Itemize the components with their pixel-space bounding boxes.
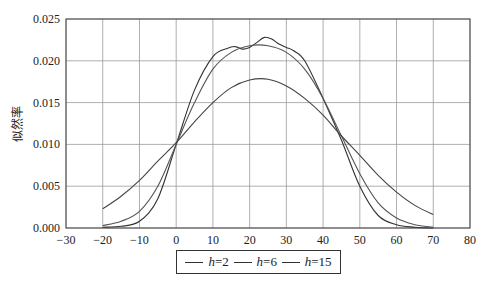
- x-tick-label: 10: [207, 233, 219, 247]
- plot-frame: [66, 19, 470, 228]
- x-tick-label: 70: [427, 233, 439, 247]
- legend-line-swatch: [185, 262, 203, 263]
- y-axis-ticks: 0.0000.0050.0100.0150.0200.025: [33, 12, 60, 235]
- x-tick-label: −20: [93, 233, 112, 247]
- x-tick-label: 20: [244, 233, 256, 247]
- x-tick-label: −10: [130, 233, 149, 247]
- y-tick-label: 0.015: [33, 96, 60, 110]
- x-tick-label: 80: [464, 233, 476, 247]
- legend-line-swatch: [282, 262, 300, 263]
- legend-label: h=15: [305, 254, 332, 270]
- density-line-chart: 0.0000.0050.0100.0150.0200.025 −30−20−10…: [0, 0, 483, 282]
- x-tick-label: 0: [173, 233, 179, 247]
- series-lines: [103, 37, 434, 228]
- y-tick-label: 0.010: [33, 137, 60, 151]
- y-axis-label: 似然率: [10, 106, 25, 142]
- x-tick-label: 40: [317, 233, 329, 247]
- x-tick-label: 30: [280, 233, 292, 247]
- grid-lines: [66, 19, 470, 228]
- legend-item-h15: h=15: [282, 254, 332, 270]
- x-tick-label: −30: [57, 233, 76, 247]
- chart-legend: h=2 h=6 h=15: [176, 250, 341, 274]
- legend-line-swatch: [234, 262, 252, 263]
- x-tick-label: 50: [354, 233, 366, 247]
- y-tick-label: 0.020: [33, 54, 60, 68]
- series-line-h15: [103, 79, 434, 215]
- legend-label: h=6: [257, 254, 277, 270]
- y-tick-label: 0.025: [33, 12, 60, 26]
- legend-label: h=2: [208, 254, 228, 270]
- legend-item-h6: h=6: [234, 254, 277, 270]
- x-tick-label: 60: [391, 233, 403, 247]
- series-line-h6: [103, 45, 434, 227]
- y-tick-label: 0.005: [33, 179, 60, 193]
- legend-item-h2: h=2: [185, 254, 228, 270]
- x-axis-ticks: −30−20−1001020304050607080: [57, 233, 476, 247]
- series-line-h2: [103, 37, 434, 228]
- plot-border: [66, 19, 470, 228]
